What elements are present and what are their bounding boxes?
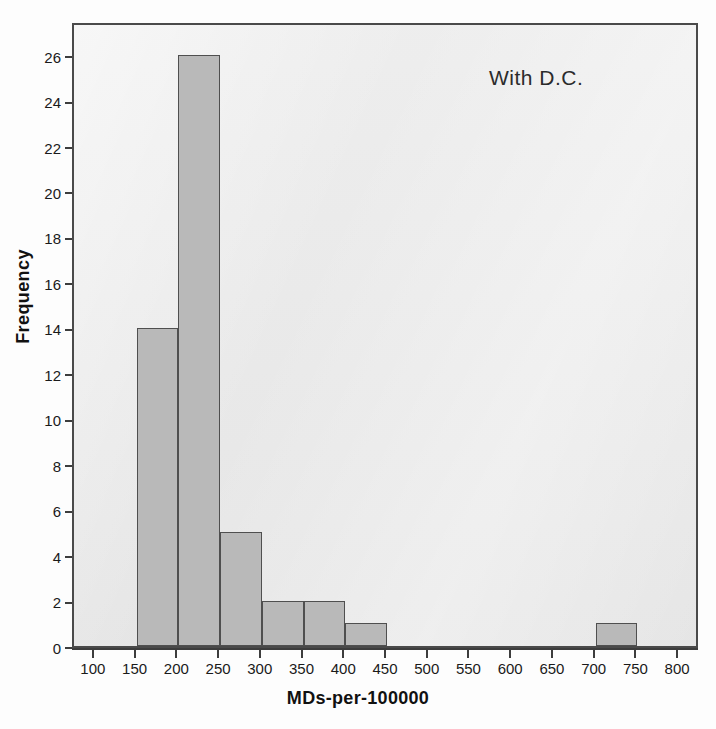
x-axis-tick-mark — [384, 650, 386, 658]
histogram-figure: With D.C. 02468101214161820222426 Freque… — [0, 0, 716, 729]
x-axis-tick-label: 350 — [289, 661, 314, 676]
x-axis: 1001502002503003504004505005506006507007… — [0, 0, 716, 729]
x-axis-tick-label: 450 — [372, 661, 397, 676]
x-axis-title: MDs-per-100000 — [0, 688, 716, 709]
x-axis-tick-label: 300 — [247, 661, 272, 676]
x-axis-tick-label: 650 — [539, 661, 564, 676]
x-axis-tick-mark — [217, 650, 219, 658]
x-axis-tick-mark — [259, 650, 261, 658]
x-axis-tick-label: 600 — [498, 661, 523, 676]
x-axis-tick-mark — [175, 650, 177, 658]
x-axis-tick-mark — [342, 650, 344, 658]
x-axis-tick-label: 700 — [581, 661, 606, 676]
x-axis-tick-mark — [551, 650, 553, 658]
x-axis-tick-label: 800 — [665, 661, 690, 676]
x-axis-tick-mark — [134, 650, 136, 658]
x-axis-tick-mark — [593, 650, 595, 658]
x-axis-tick-mark — [467, 650, 469, 658]
x-axis-tick-label: 100 — [80, 661, 105, 676]
x-axis-tick-label: 400 — [331, 661, 356, 676]
x-axis-tick-mark — [676, 650, 678, 658]
x-axis-tick-label: 200 — [164, 661, 189, 676]
x-axis-tick-label: 150 — [122, 661, 147, 676]
x-axis-tick-mark — [301, 650, 303, 658]
x-axis-tick-label: 550 — [456, 661, 481, 676]
x-axis-tick-mark — [426, 650, 428, 658]
x-axis-tick-label: 250 — [206, 661, 231, 676]
x-axis-tick-label: 750 — [623, 661, 648, 676]
x-axis-tick-mark — [634, 650, 636, 658]
x-axis-tick-mark — [92, 650, 94, 658]
x-axis-tick-mark — [509, 650, 511, 658]
x-axis-tick-label: 500 — [414, 661, 439, 676]
